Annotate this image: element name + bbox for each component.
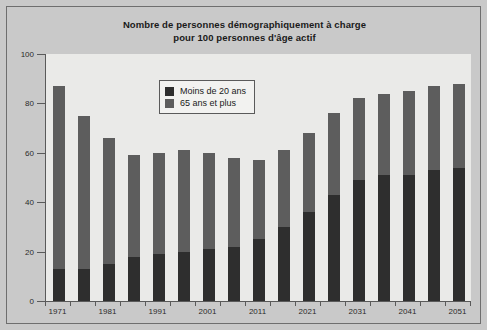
bar-segment-moins-de-20-ans [228,247,240,301]
x-axis-tick-label: 2001 [199,307,217,316]
legend-label-young: Moins de 20 ans [180,85,246,97]
y-axis-tick [37,153,45,154]
y-axis-tick-label: 20 [7,247,34,256]
bar-segment-moins-de-20-ans [428,170,440,301]
bar-segment-65-ans-et-plus [378,94,390,176]
bar-series-container [46,54,471,301]
x-axis-tick [420,301,421,306]
bar-segment-moins-de-20-ans [128,257,140,301]
x-axis-tick-label: 2011 [249,307,266,316]
x-axis-tick-label: 2041 [399,307,417,316]
bar-segment-65-ans-et-plus [278,150,290,227]
legend-label-old: 65 ans et plus [180,97,236,109]
bar-slot [346,54,371,301]
bar-segment-65-ans-et-plus [403,91,415,175]
chart-frame: Nombre de personnes démographiquement à … [6,6,481,324]
x-axis-labels: 197119811991200120112021203120412051 [45,307,470,321]
y-axis-tick-label: 80 [7,99,34,108]
chart-legend: Moins de 20 ans 65 ans et plus [159,80,255,114]
bar-segment-65-ans-et-plus [228,158,240,247]
stacked-bar[interactable] [453,84,465,301]
x-axis-tick [45,301,46,306]
y-axis-tick-label: 100 [7,50,34,59]
x-axis-tick-label: 2051 [449,307,467,316]
y-axis-tick [37,252,45,253]
x-axis-tick [270,301,271,306]
bar-slot [96,54,121,301]
chart-title-line2: pour 100 personnes d'âge actif [7,31,482,44]
bar-slot [71,54,96,301]
bar-segment-65-ans-et-plus [103,138,115,264]
stacked-bar[interactable] [328,113,340,301]
y-axis-tick [37,54,45,55]
bar-segment-65-ans-et-plus [353,98,365,180]
chart-figure: Nombre de personnes démographiquement à … [0,0,487,330]
bar-segment-moins-de-20-ans [453,168,465,301]
bar-slot [271,54,296,301]
bar-segment-moins-de-20-ans [203,249,215,301]
bar-segment-moins-de-20-ans [303,212,315,301]
bar-slot [371,54,396,301]
legend-item-moins-de-20-ans: Moins de 20 ans [165,85,246,97]
bar-segment-65-ans-et-plus [253,160,265,239]
bar-segment-moins-de-20-ans [103,264,115,301]
stacked-bar[interactable] [153,153,165,301]
bar-segment-moins-de-20-ans [353,180,365,301]
bar-segment-moins-de-20-ans [153,254,165,301]
stacked-bar[interactable] [128,155,140,301]
stacked-bar[interactable] [78,116,90,301]
stacked-bar[interactable] [278,150,290,301]
legend-swatch-icon-old [165,99,174,108]
stacked-bar[interactable] [378,94,390,301]
y-axis-tick-label: 0 [7,297,34,306]
x-axis-tick [370,301,371,306]
x-axis-tick [195,301,196,306]
stacked-bar[interactable] [403,91,415,301]
stacked-bar[interactable] [53,86,65,301]
bar-slot [296,54,321,301]
bar-segment-65-ans-et-plus [78,116,90,269]
bar-segment-65-ans-et-plus [203,153,215,249]
stacked-bar[interactable] [303,133,315,301]
x-axis-tick [445,301,446,306]
x-axis-tick [120,301,121,306]
x-axis-tick [70,301,71,306]
bar-segment-moins-de-20-ans [328,195,340,301]
x-axis-tick [395,301,396,306]
y-axis-tick-label: 60 [7,148,34,157]
bar-segment-65-ans-et-plus [53,86,65,269]
x-axis-tick [295,301,296,306]
bar-segment-65-ans-et-plus [328,113,340,195]
bar-segment-65-ans-et-plus [303,133,315,212]
stacked-bar[interactable] [253,160,265,301]
stacked-bar[interactable] [178,150,190,301]
x-axis-tick [170,301,171,306]
stacked-bar[interactable] [103,138,115,301]
y-axis-tick [37,301,45,302]
x-axis-tick-label: 2021 [299,307,317,316]
bar-segment-moins-de-20-ans [53,269,65,301]
bar-slot [396,54,421,301]
x-axis-tick [95,301,96,306]
x-axis-tick-label: 1991 [149,307,167,316]
plot-area [45,54,471,302]
x-axis-tick [320,301,321,306]
legend-swatch-icon-young [165,87,174,96]
bar-slot [321,54,346,301]
x-axis-tick [145,301,146,306]
stacked-bar[interactable] [203,153,215,301]
stacked-bar[interactable] [228,158,240,301]
x-axis-tick [220,301,221,306]
bar-slot [46,54,71,301]
stacked-bar[interactable] [428,86,440,301]
y-axis-tick [37,202,45,203]
bar-segment-moins-de-20-ans [253,239,265,301]
bar-segment-moins-de-20-ans [378,175,390,301]
bar-segment-65-ans-et-plus [453,84,465,168]
bar-segment-moins-de-20-ans [178,252,190,301]
x-axis-tick [345,301,346,306]
bar-slot [121,54,146,301]
x-axis-tick-label: 1971 [49,307,67,316]
stacked-bar[interactable] [353,98,365,301]
x-axis-tick-label: 2031 [349,307,367,316]
